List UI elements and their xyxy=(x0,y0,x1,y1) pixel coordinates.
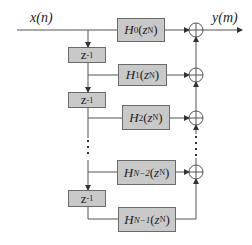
delay-block-1: z-1 xyxy=(68,47,106,63)
delay-exponent: -1 xyxy=(87,194,94,203)
delay-exponent: -1 xyxy=(87,51,94,60)
filter-hn-1: HN−1(zN) xyxy=(118,207,176,232)
filter-exp: N xyxy=(153,113,159,122)
filter-name: H xyxy=(124,22,133,38)
output-label: y(m) xyxy=(212,10,238,26)
filter-exp: N xyxy=(149,71,155,80)
filter-name: H xyxy=(124,165,133,181)
filter-exp: N xyxy=(159,168,165,177)
filter-index: 0 xyxy=(134,25,139,35)
adder-2 xyxy=(189,111,203,125)
adder-3 xyxy=(189,165,203,179)
filter-exp: N xyxy=(148,26,154,35)
delay-exponent: -1 xyxy=(87,96,94,105)
filter-name: H xyxy=(126,67,135,83)
polyphase-filter-diagram: x(n) y(m) z-1 z-1 z-1 H0(zN) H1(zN) H2(z… xyxy=(0,0,252,245)
filter-index: 1 xyxy=(135,70,140,80)
delay-block-2: z-1 xyxy=(68,92,106,108)
input-label: x(n) xyxy=(30,10,53,26)
filter-h1: H1(zN) xyxy=(118,64,167,86)
filter-index: N−2 xyxy=(133,168,150,178)
filter-h2: H2(zN) xyxy=(122,105,170,130)
adder-0 xyxy=(189,23,203,37)
filter-name: H xyxy=(124,212,133,228)
delay-block-3: z-1 xyxy=(68,190,106,207)
filter-name: H xyxy=(129,110,138,126)
filter-hn-2: HN−2(zN) xyxy=(117,160,176,185)
adder-1 xyxy=(189,68,203,82)
filter-exp: N xyxy=(160,215,166,224)
filter-index: N−1 xyxy=(134,215,151,225)
filter-index: 2 xyxy=(139,113,144,123)
filter-h0: H0(zN) xyxy=(117,18,165,42)
